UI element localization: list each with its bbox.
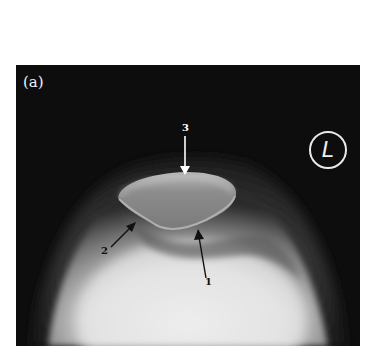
annotation-label-3: 3 (182, 122, 189, 133)
annotation-label-2: 2 (101, 245, 108, 256)
radiograph-figure: (a) L 3 2 1 (16, 65, 360, 346)
panel-label: (a) (23, 73, 44, 91)
xray-image (16, 65, 360, 346)
annotation-label-1: 1 (205, 276, 212, 287)
side-marker-letter: L (322, 139, 334, 161)
left-side-marker: L (309, 131, 347, 169)
